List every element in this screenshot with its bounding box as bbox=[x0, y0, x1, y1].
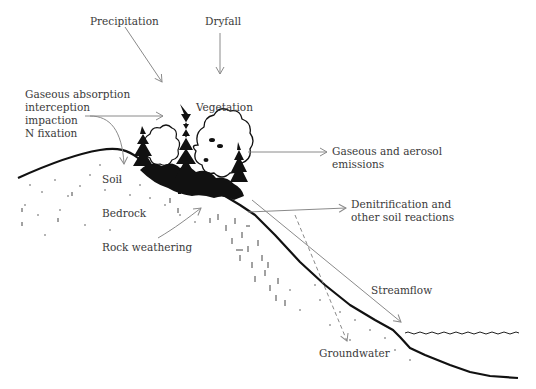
label-n-fixation: N fixation bbox=[25, 127, 77, 140]
label-streamflow: Streamflow bbox=[371, 284, 432, 297]
label-impaction: impaction bbox=[25, 114, 78, 127]
label-soil: Soil bbox=[102, 173, 122, 186]
label-gaseous-absorption: Gaseous absorption bbox=[25, 88, 130, 101]
flow-arrows bbox=[85, 27, 401, 341]
label-precipitation: Precipitation bbox=[90, 15, 159, 28]
label-interception: interception bbox=[25, 101, 90, 114]
label-emissions-line2: emissions bbox=[332, 158, 384, 171]
label-bedrock: Bedrock bbox=[102, 207, 146, 220]
groundwater-arrow bbox=[295, 215, 347, 341]
label-denitrification-line1: Denitrification and bbox=[351, 198, 451, 211]
precipitation-arrow bbox=[125, 27, 162, 82]
label-vegetation: Vegetation bbox=[196, 101, 253, 114]
gaseous-absorption-soil-arrow bbox=[90, 116, 124, 164]
vegetation-artwork bbox=[133, 104, 253, 200]
watershed-diagram: Precipitation Dryfall Gaseous absorption… bbox=[0, 0, 536, 389]
label-emissions-line1: Gaseous and aerosol bbox=[332, 145, 442, 158]
label-dryfall: Dryfall bbox=[205, 15, 241, 28]
water-surface-line bbox=[405, 332, 519, 334]
diagram-artwork bbox=[0, 0, 536, 389]
rock-weathering-arrow bbox=[158, 208, 201, 238]
label-groundwater: Groundwater bbox=[319, 347, 390, 360]
label-denitrification-line2: other soil reactions bbox=[351, 211, 454, 224]
label-rock-weathering: Rock weathering bbox=[102, 241, 192, 254]
